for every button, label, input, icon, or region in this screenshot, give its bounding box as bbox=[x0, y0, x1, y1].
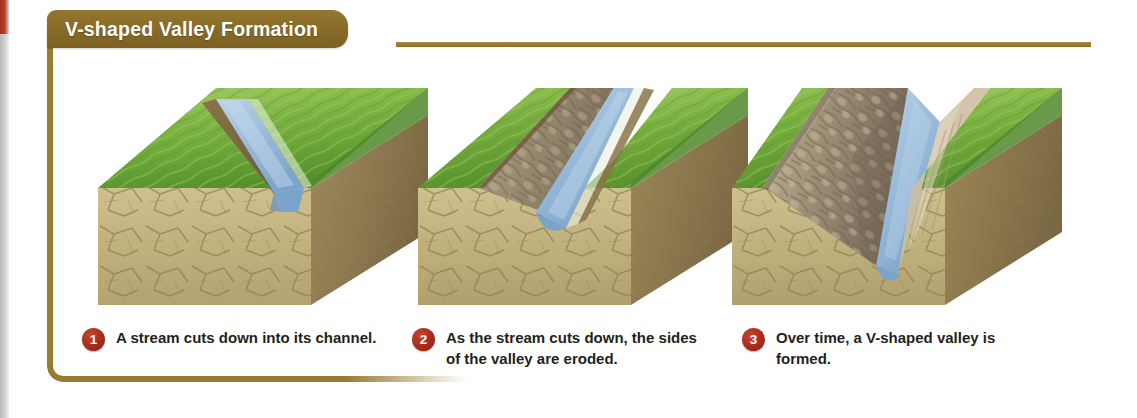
step-caption-text-2: As the stream cuts down, the sides of th… bbox=[446, 327, 708, 369]
page-edge-gray-strip bbox=[0, 34, 9, 418]
step-caption-1: 1 A stream cuts down into its channel. bbox=[82, 327, 382, 351]
step-caption-text-1: A stream cuts down into its channel. bbox=[116, 327, 376, 348]
step-number-badge-2: 2 bbox=[412, 328, 435, 351]
terrain-block-stream-cuts-channel bbox=[98, 60, 428, 310]
page-margin bbox=[9, 0, 31, 418]
step-caption-3: 3 Over time, a V-shaped valley is formed… bbox=[742, 327, 1042, 369]
page-title: V-shaped Valley Formation bbox=[65, 18, 318, 41]
banner-divider-rule bbox=[396, 42, 1091, 47]
step-number-badge-1: 1 bbox=[82, 328, 105, 351]
page-edge-red-marker bbox=[0, 0, 9, 34]
step-caption-2: 2 As the stream cuts down, the sides of … bbox=[412, 327, 712, 369]
step-caption-text-3: Over time, a V-shaped valley is formed. bbox=[776, 327, 1038, 369]
terrain-block-v-shaped-valley-formed bbox=[732, 60, 1062, 310]
valley-formation-illustration bbox=[60, 60, 1120, 320]
step-number-badge-3: 3 bbox=[742, 328, 765, 351]
figure-title-banner: V-shaped Valley Formation bbox=[47, 10, 348, 48]
terrain-block-valley-sides-eroded bbox=[418, 60, 748, 310]
